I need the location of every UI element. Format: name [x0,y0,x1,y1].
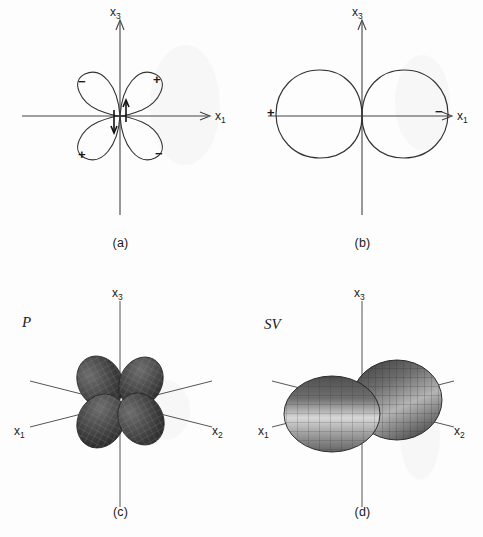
axis-label-x3: x3 [352,5,363,21]
panel-c: P x3 x1 x2 (c) [0,269,241,537]
sign-right: − [435,104,443,119]
sign-upper-left: − [78,74,86,89]
axis-label-x2: x2 [454,424,465,440]
lobe-left [276,70,362,158]
axis-label-x2: x2 [212,424,223,440]
wave-label-sv: SV [264,316,283,332]
axis-label-x3: x3 [110,5,121,21]
panel-d: SV x3 x1 x2 (d) [242,269,483,537]
panel-b: x3 x1 + − (b) [242,0,483,268]
panel-caption-b: (b) [242,236,483,250]
axis-label-x1: x1 [14,424,25,440]
panel-caption-d: (d) [242,505,483,519]
axis-label-x3: x3 [354,286,365,302]
lobe-3d-left [284,376,380,452]
sign-lower-right: − [155,146,163,161]
axis-label-x1: x1 [215,109,226,125]
panel-caption-a: (a) [0,236,241,250]
panel-caption-c: (c) [0,505,241,519]
sign-lower-left: + [78,147,86,162]
axis-label-x1: x1 [258,424,269,440]
axis-label-x1: x1 [457,109,468,125]
radiation-pattern-figure: x3 x1 − + + − (a) x3 [0,0,483,537]
panel-a: x3 x1 − + + − (a) [0,0,241,268]
axis-label-x3: x3 [112,286,123,302]
wave-label-p: P [21,314,31,330]
sign-upper-right: + [153,72,161,87]
sign-left: + [267,105,275,120]
